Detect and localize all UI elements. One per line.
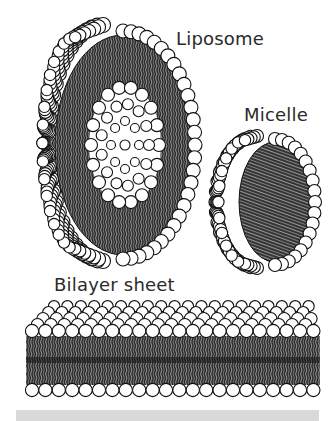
- membrane-structures-diagram: [0, 0, 330, 421]
- liposome-label: Liposome: [176, 28, 264, 49]
- micelle-label: Micelle: [244, 104, 308, 125]
- liposome: [37, 18, 202, 269]
- bilayer-sheet: [25, 301, 320, 397]
- bilayer-sheet-label: Bilayer sheet: [54, 274, 175, 295]
- footer-bar: [16, 410, 319, 421]
- micelle: [209, 130, 322, 275]
